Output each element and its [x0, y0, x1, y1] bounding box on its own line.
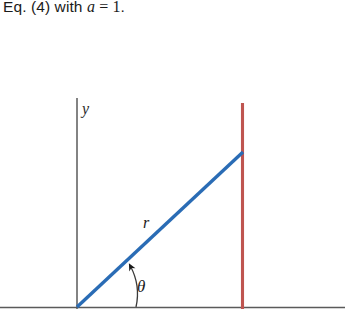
- radius-label: r: [143, 214, 150, 231]
- angle-label: θ: [137, 277, 145, 296]
- radius-ray-line: [77, 152, 243, 307]
- y-axis-label: y: [80, 100, 90, 118]
- figure-container: Eq. (4) with a = 1. y r θ: [0, 0, 345, 313]
- polar-angle-diagram: y r θ: [0, 0, 345, 313]
